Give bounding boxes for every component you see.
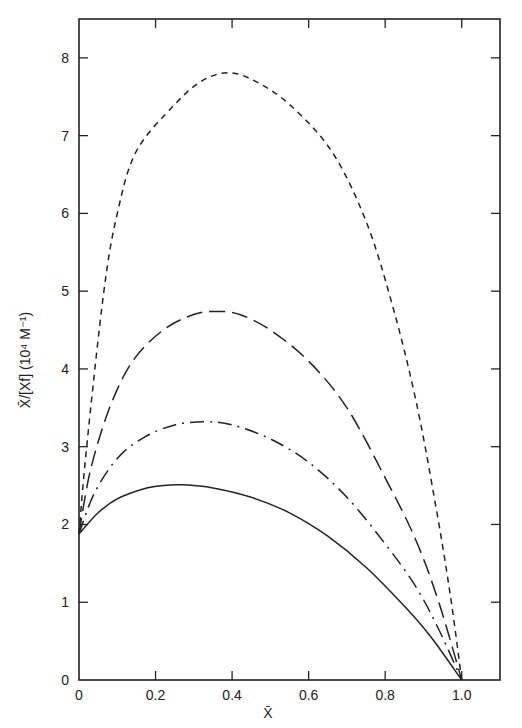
y-tick-label: 6 bbox=[61, 205, 69, 221]
data-series bbox=[79, 73, 462, 680]
y-tick-label: 3 bbox=[61, 439, 69, 455]
y-tick-label: 8 bbox=[61, 50, 69, 66]
y-tick-label: 1 bbox=[61, 594, 69, 610]
solid-curve bbox=[79, 485, 462, 680]
dash-dot-curve bbox=[79, 422, 462, 680]
x-tick-label: 0.8 bbox=[375, 687, 395, 703]
x-axis-label: X̄ bbox=[263, 705, 273, 721]
x-tick-label: 0.6 bbox=[299, 687, 319, 703]
x-tick-label: 0.2 bbox=[146, 687, 166, 703]
chart: 00.20.40.60.81.0 012345678 X̄ X̄/[Xf] (1… bbox=[0, 0, 522, 728]
y-tick-label: 0 bbox=[61, 672, 69, 688]
x-axis-ticks: 00.20.40.60.81.0 bbox=[75, 19, 472, 703]
x-tick-label: 1.0 bbox=[452, 687, 472, 703]
y-tick-label: 7 bbox=[61, 128, 69, 144]
y-tick-label: 5 bbox=[61, 283, 69, 299]
x-tick-label: 0 bbox=[75, 687, 83, 703]
y-tick-label: 4 bbox=[61, 361, 69, 377]
short-dash-curve bbox=[79, 73, 462, 680]
x-tick-label: 0.4 bbox=[222, 687, 242, 703]
y-tick-label: 2 bbox=[61, 516, 69, 532]
y-axis-label: X̄/[Xf] (10⁴ M⁻¹) bbox=[17, 312, 33, 408]
long-dash-curve bbox=[79, 311, 462, 680]
